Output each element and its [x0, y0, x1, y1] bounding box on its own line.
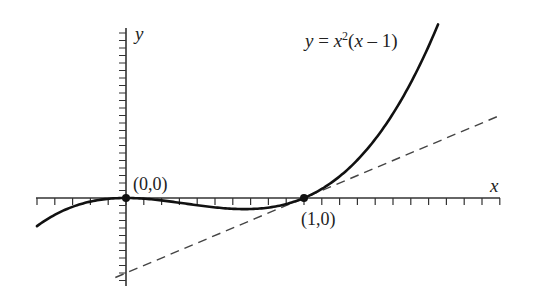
origin-point: [122, 194, 130, 202]
x-axis-label: x: [490, 176, 498, 195]
plot-canvas: [0, 0, 534, 306]
equation-label: y = x2(x – 1): [305, 30, 398, 50]
y-axis-ticks: [119, 33, 126, 281]
function-curve: [37, 24, 438, 226]
y-axis-label: y: [135, 24, 143, 43]
origin-point-label: (0,0): [133, 175, 168, 193]
graph-figure: y = x2(x – 1) y x (0,0) (1,0): [0, 0, 534, 306]
root-point-label: (1,0): [301, 210, 336, 228]
root-point: [300, 194, 308, 202]
